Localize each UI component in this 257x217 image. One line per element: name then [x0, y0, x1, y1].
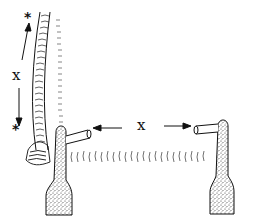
right-stub — [194, 124, 218, 134]
top-marker-asterisk: * — [24, 10, 31, 24]
horizontal-distance-label: x — [137, 118, 145, 133]
bottom-marker-asterisk: * — [12, 122, 19, 136]
stem-base — [26, 142, 50, 165]
horizontal-fuzz — [71, 151, 224, 162]
diagram-canvas — [0, 0, 257, 217]
vertical-distance-label: x — [12, 68, 20, 83]
arrow-right-icon — [183, 123, 191, 129]
stem-fuzz — [56, 20, 63, 122]
arrow-left-icon — [93, 125, 101, 131]
right-post — [210, 120, 234, 214]
left-stub — [66, 130, 91, 144]
